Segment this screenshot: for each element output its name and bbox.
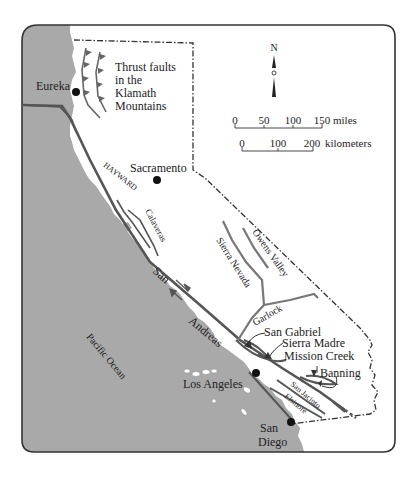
label-sierra-madre: Sierra Madre: [282, 336, 345, 350]
fault-map: Eureka Thrust faults in the Klamath Moun…: [0, 0, 412, 486]
label-los-angeles: Los Angeles: [183, 377, 243, 391]
label-diego: Diego: [258, 435, 287, 449]
scale-miles-100: 100: [285, 114, 302, 126]
label-sacramento: Sacramento: [130, 161, 187, 175]
label-thrust-1: Thrust faults: [115, 60, 176, 74]
label-eureka: Eureka: [36, 79, 71, 93]
scale-miles-150: 150: [314, 114, 331, 126]
label-thrust-2: in the: [115, 73, 142, 87]
scale-km-200: 200: [304, 137, 321, 149]
label-san: San: [260, 421, 278, 435]
scale-miles-unit: miles: [333, 114, 357, 126]
scale-km-0: 0: [239, 137, 245, 149]
san-diego-dot: [287, 418, 295, 426]
eureka-dot: [72, 88, 80, 96]
label-banning: Banning: [320, 366, 361, 380]
scale-km-unit: kilometers: [325, 137, 371, 149]
label-thrust-3: Klamath: [115, 86, 156, 100]
svg-text:N: N: [270, 42, 277, 53]
scale-miles-0: 0: [232, 114, 238, 126]
los-angeles-dot: [252, 369, 260, 377]
label-thrust-4: Mountains: [115, 99, 167, 113]
scale-miles-50: 50: [259, 114, 271, 126]
label-mission-creek: Mission Creek: [284, 349, 354, 363]
sacramento-dot: [153, 176, 161, 184]
scale-km-100: 100: [270, 137, 287, 149]
